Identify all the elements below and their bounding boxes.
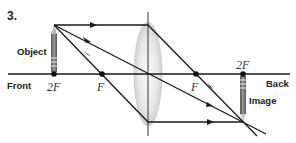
back-2f-point [240, 71, 246, 77]
front-label: Front [7, 80, 32, 91]
back-f-label: F [190, 80, 199, 94]
image-pencil [240, 76, 246, 122]
front-f-point [99, 71, 105, 77]
back-label: Back [266, 78, 289, 89]
back-f-point [193, 71, 199, 77]
object-label: Object [17, 46, 47, 57]
arrow-icon [90, 22, 97, 28]
front-f-label: F [96, 80, 105, 94]
arrow-icon [207, 119, 214, 125]
ray-diagram: 3. Object Image Front Back 2F F F 2F [0, 0, 296, 143]
back-2f-label: 2F [236, 58, 250, 72]
figure-number: 3. [7, 9, 17, 23]
front-2f-point [51, 71, 57, 77]
front-2f-label: 2F [47, 80, 61, 94]
image-label: Image [249, 95, 276, 106]
object-pencil [51, 25, 57, 72]
